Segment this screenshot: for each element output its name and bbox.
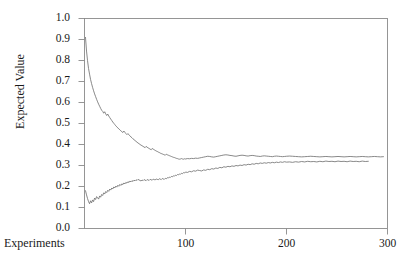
series-line-lower [86, 161, 369, 204]
plot-frame [85, 19, 388, 229]
x-axis-label: Experiments [4, 236, 65, 251]
x-tick-label: 300 [368, 237, 408, 249]
y-tick-label: 0.9 [38, 32, 70, 44]
x-tick-label: 200 [267, 237, 307, 249]
y-tick-label: 0.8 [38, 53, 70, 65]
y-tick-label: 0.4 [38, 137, 70, 149]
y-axis-label: Expected Value [13, 46, 28, 138]
axis-ticks [79, 19, 388, 235]
x-tick-label: 100 [166, 237, 206, 249]
y-tick-label: 0.5 [38, 116, 70, 128]
y-tick-label: 0.3 [38, 158, 70, 170]
plot-border [85, 19, 388, 229]
chart-figure: Expected Value Experiments 0.00.10.20.30… [0, 0, 408, 266]
y-tick-label: 1.0 [38, 11, 70, 23]
y-tick-label: 0.0 [38, 221, 70, 233]
data-series [86, 37, 384, 203]
y-tick-label: 0.7 [38, 74, 70, 86]
y-tick-label: 0.1 [38, 200, 70, 212]
series-line-upper [86, 37, 384, 159]
y-tick-label: 0.6 [38, 95, 70, 107]
y-tick-label: 0.2 [38, 179, 70, 191]
